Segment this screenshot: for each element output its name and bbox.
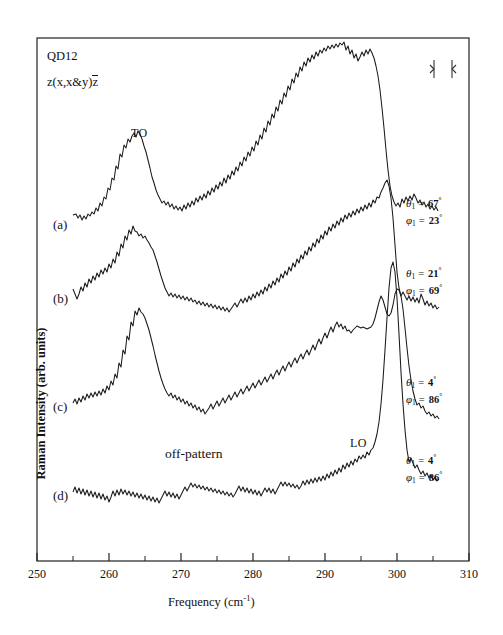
phi-row-b: φ1=69° <box>406 279 442 296</box>
sample-id-label: QD12 <box>47 50 78 63</box>
y-axis-title: Raman Intensity (arb. units) <box>34 289 49 519</box>
phi-row-d: φ1=86° <box>406 466 442 483</box>
x-tick-260: 260 <box>89 567 129 582</box>
polarization-prefix: z(x,x&y) <box>47 75 92 89</box>
x-tick-280: 280 <box>233 567 273 582</box>
polarization-z-bar: z <box>92 76 98 89</box>
to-peak-label: TO <box>131 127 147 139</box>
x-axis-title: Frequency (cm-1) <box>168 594 255 609</box>
off-pattern-label: off-pattern <box>165 447 222 461</box>
trace-label-a: (a) <box>53 218 67 231</box>
phi-row-c: φ1=86° <box>406 388 442 405</box>
angle-block-c: θ1=4° φ1=86° <box>406 371 442 405</box>
x-tick-290: 290 <box>305 567 345 582</box>
angle-block-b: θ1=21° φ1=69° <box>406 262 442 296</box>
lo-peak-label: LO <box>350 437 367 449</box>
trace-label-c: (c) <box>53 400 67 413</box>
x-axis-title-main: Frequency (cm <box>168 595 243 609</box>
x-axis-title-close: ) <box>250 595 254 609</box>
angle-block-d: θ1=4° φ1=86° <box>406 449 442 483</box>
x-tick-300: 300 <box>377 567 417 582</box>
polarization-configuration-label: z(x,x&y)z <box>47 76 98 89</box>
theta-row-c: θ1=4° <box>406 371 442 388</box>
x-tick-270: 270 <box>161 567 201 582</box>
trace-label-b: (b) <box>53 292 68 305</box>
theta-row-d: θ1=4° <box>406 449 442 466</box>
theta-row-a: θ1=67° <box>406 192 442 209</box>
plot-canvas <box>0 0 503 635</box>
x-tick-250: 250 <box>17 567 57 582</box>
trace-label-d: (d) <box>53 489 68 502</box>
plot-frame <box>37 38 469 561</box>
raman-spectra-figure: QD12 z(x,x&y)z TO LO off-pattern (a) (b)… <box>0 0 503 635</box>
phi-row-a: φ1=23° <box>406 209 442 226</box>
theta-row-b: θ1=21° <box>406 262 442 279</box>
angle-block-a: θ1=67° φ1=23° <box>406 192 442 226</box>
x-tick-310: 310 <box>449 567 489 582</box>
